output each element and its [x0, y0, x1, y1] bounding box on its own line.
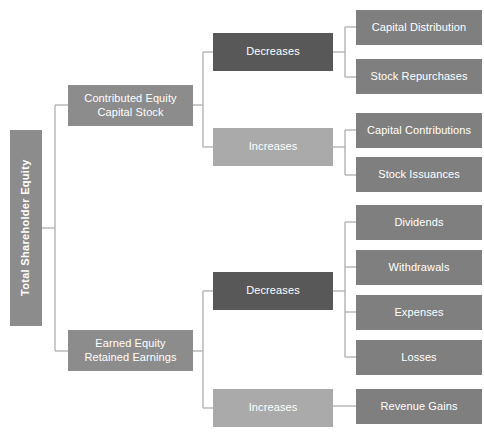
- node-stock-repurchases[interactable]: Stock Repurchases: [356, 59, 482, 94]
- node-label: Increases: [249, 140, 298, 153]
- node-revenue-gains[interactable]: Revenue Gains: [356, 389, 482, 424]
- node-stock-issuances[interactable]: Stock Issuances: [356, 157, 482, 192]
- node-label: Capital Contributions: [367, 124, 471, 137]
- node-label: Stock Issuances: [378, 168, 460, 181]
- node-losses[interactable]: Losses: [356, 340, 482, 375]
- node-capital-contributions[interactable]: Capital Contributions: [356, 113, 482, 148]
- node-label: Total Shareholder Equity: [19, 160, 32, 297]
- node-total-shareholder-equity[interactable]: Total Shareholder Equity: [10, 130, 42, 326]
- node-label: Losses: [401, 351, 436, 364]
- node-label: Increases: [249, 401, 298, 414]
- node-label: Earned Equity Retained Earnings: [84, 337, 176, 364]
- node-earned-decreases[interactable]: Decreases: [213, 272, 333, 310]
- node-contributed-equity[interactable]: Contributed Equity Capital Stock: [68, 85, 193, 126]
- node-dividends[interactable]: Dividends: [356, 205, 482, 240]
- node-contributed-decreases[interactable]: Decreases: [213, 33, 333, 71]
- node-earned-equity[interactable]: Earned Equity Retained Earnings: [68, 330, 193, 371]
- node-label: Withdrawals: [388, 261, 449, 274]
- node-label: Decreases: [246, 284, 299, 297]
- node-label: Stock Repurchases: [370, 70, 467, 83]
- node-earned-increases[interactable]: Increases: [213, 389, 333, 427]
- node-capital-distribution[interactable]: Capital Distribution: [356, 10, 482, 45]
- node-label: Revenue Gains: [380, 400, 457, 413]
- equity-tree-diagram: Total Shareholder Equity Contributed Equ…: [0, 0, 484, 436]
- node-label: Capital Distribution: [372, 21, 466, 34]
- node-withdrawals[interactable]: Withdrawals: [356, 250, 482, 285]
- node-label: Decreases: [246, 45, 299, 58]
- node-label: Contributed Equity Capital Stock: [84, 92, 176, 119]
- node-label: Expenses: [394, 306, 443, 319]
- node-expenses[interactable]: Expenses: [356, 295, 482, 330]
- node-contributed-increases[interactable]: Increases: [213, 128, 333, 166]
- node-label: Dividends: [394, 216, 443, 229]
